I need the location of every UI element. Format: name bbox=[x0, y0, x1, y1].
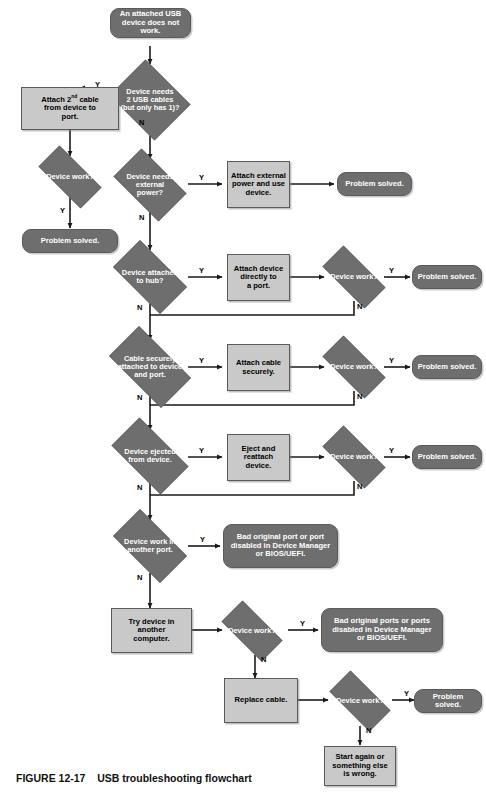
node-process-attach-device-directly: Attach device directly to a port. bbox=[227, 254, 290, 301]
node-decision-device-work-1: Device work? bbox=[28, 156, 112, 198]
node-terminator-bad-original-ports: Bad original ports or ports disabled in … bbox=[321, 608, 443, 652]
edge-label-y3: Y bbox=[199, 173, 204, 182]
node-decision-external-power: Device needs external power? bbox=[105, 157, 195, 213]
node-terminator-problem-solved-3: Problem solved. bbox=[412, 265, 482, 289]
node-label: Device work? bbox=[330, 273, 378, 281]
node-process-start-again: Start again or something else is wrong. bbox=[324, 746, 396, 786]
edge-label-y6: Y bbox=[199, 356, 204, 365]
edge-label-y8: Y bbox=[199, 446, 204, 455]
node-label: Device work? bbox=[330, 453, 378, 461]
node-label: Attach 2nd cable from device to port. bbox=[41, 96, 99, 122]
node-label: Device work? bbox=[46, 173, 94, 181]
node-process-attach-external-power: Attach external power and use device. bbox=[227, 161, 290, 208]
node-decision-device-work-5: Device work? bbox=[212, 610, 292, 652]
edge-label-y1: Y bbox=[95, 80, 100, 89]
node-label: Device ejected from device. bbox=[124, 448, 175, 464]
edge-label-n9: N bbox=[357, 482, 362, 491]
node-decision-cable-secure: Cable securely attached to device and po… bbox=[98, 337, 202, 397]
node-terminator-problem-solved-5: Problem solved. bbox=[412, 445, 482, 469]
edge-label-n1: N bbox=[139, 118, 144, 127]
node-label: Device work? bbox=[330, 363, 378, 371]
edge-label-y4: Y bbox=[199, 266, 204, 275]
edge-label-y5: Y bbox=[389, 266, 394, 275]
node-process-attach-second-cable: Attach 2nd cable from device to port. bbox=[21, 87, 119, 130]
node-decision-device-work-6: Device work? bbox=[320, 680, 400, 722]
node-terminator-problem-solved-6: Problem solved. bbox=[414, 689, 482, 713]
edge-label-y7: Y bbox=[389, 356, 394, 365]
edge-label-n8: N bbox=[137, 483, 142, 492]
node-decision-device-work-4: Device work? bbox=[312, 436, 396, 478]
node-start: An attached USB device does not work. bbox=[110, 8, 191, 38]
node-decision-device-work-3: Device work? bbox=[312, 346, 396, 388]
node-process-try-another-computer: Try device in another computer. bbox=[111, 608, 192, 653]
node-label: Device needs 2 USB cables (but only has … bbox=[120, 88, 179, 112]
edge-label-y12: Y bbox=[404, 689, 409, 698]
node-terminator-bad-original-port: Bad original port or port disabled in De… bbox=[223, 524, 338, 568]
edge-label-n12: N bbox=[366, 726, 371, 735]
node-process-eject-reattach: Eject and reattach device. bbox=[227, 434, 290, 481]
node-label: Device work? bbox=[228, 627, 276, 635]
node-decision-device-work-2: Device work? bbox=[312, 256, 396, 298]
figure-caption: FIGURE 12-17 USB troubleshooting flowcha… bbox=[16, 772, 252, 784]
edge-label-y10: Y bbox=[200, 535, 205, 544]
node-label: Cable securely attached to device and po… bbox=[118, 355, 182, 379]
node-process-attach-cable-securely: Attach cable securely. bbox=[227, 344, 290, 391]
figure-caption-text: USB troubleshooting flowchart bbox=[97, 772, 252, 784]
edge-label-n10: N bbox=[137, 573, 142, 582]
edge-label-n4: N bbox=[137, 303, 142, 312]
edge-label-n11: N bbox=[261, 655, 266, 664]
edge-label-n6: N bbox=[137, 393, 142, 402]
node-process-replace-cable: Replace cable. bbox=[224, 678, 298, 723]
edge-label-n5: N bbox=[357, 302, 362, 311]
node-decision-device-ejected: Device ejected from device. bbox=[101, 428, 199, 484]
edge-label-y2: Y bbox=[60, 206, 65, 215]
node-label: Device needs external power? bbox=[126, 173, 173, 197]
node-decision-device-attached-hub: Device attached to hub? bbox=[103, 250, 197, 304]
node-terminator-problem-solved-4: Problem solved. bbox=[412, 355, 482, 379]
edge-label-y9: Y bbox=[389, 446, 394, 455]
figure-number: FIGURE 12-17 bbox=[16, 772, 85, 784]
edge-label-y11: Y bbox=[300, 619, 305, 628]
node-label: Device work in another port. bbox=[124, 538, 176, 554]
node-terminator-problem-solved-2: Problem solved. bbox=[337, 172, 412, 196]
node-label: Device attached to hub? bbox=[122, 269, 178, 285]
edge-label-n7: N bbox=[357, 392, 362, 401]
node-decision-work-another-port: Device work in another port. bbox=[103, 519, 197, 573]
node-label: Device work? bbox=[336, 697, 384, 705]
edge-label-n3: N bbox=[139, 213, 144, 222]
